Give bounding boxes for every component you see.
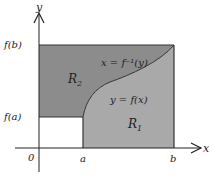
curve-label-function: y = f(x) <box>109 94 148 105</box>
tick-label-a: a <box>80 153 86 164</box>
x-axis-label: x <box>203 142 210 155</box>
tick-label-f-b: f(b) <box>3 39 22 50</box>
origin-label: 0 <box>28 152 35 163</box>
curve-label-inverse: x = f⁻¹(y) <box>101 57 148 68</box>
y-axis-label: y <box>35 1 43 14</box>
tick-label-f-a: f(a) <box>3 111 22 122</box>
inverse-function-area-diagram: y x 0 a b f(a) f(b) R2 R1 x = f⁻¹(y) y =… <box>0 0 213 177</box>
tick-label-b: b <box>170 153 176 164</box>
